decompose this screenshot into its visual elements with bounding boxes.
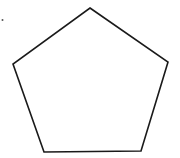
marker-dot [2,19,4,21]
pentagon-figure [0,0,180,158]
diagram-canvas [0,0,180,158]
pentagon-shape [13,8,168,152]
